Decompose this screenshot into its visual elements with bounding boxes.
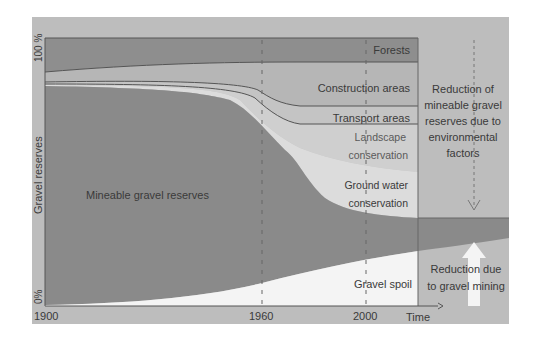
annotation-env-2: mineable gravel — [424, 99, 502, 111]
annotation-mining-2: to gravel mining — [427, 280, 505, 292]
y-axis-bottom-label: 0% — [33, 289, 44, 304]
label-groundwater-conservation-1: Ground water — [344, 179, 408, 191]
label-mineable-gravel-reserves: Mineable gravel reserves — [86, 189, 209, 201]
annotation-env-5: factors — [446, 147, 480, 159]
annotation-env-4: environmental — [428, 131, 497, 143]
annotation-env-1: Reduction of — [432, 83, 495, 95]
x-axis-title: Time — [406, 311, 430, 323]
x-tick-1900: 1900 — [34, 310, 58, 322]
label-gravel-spoil: Gravel spoil — [354, 278, 412, 290]
annotation-env-3: reserves due to — [425, 115, 501, 127]
label-landscape-conservation-1: Landscape — [355, 131, 407, 143]
label-landscape-conservation-2: conservation — [348, 149, 408, 161]
label-construction-areas: Construction areas — [318, 82, 411, 94]
x-tick-1960: 1960 — [249, 310, 273, 322]
label-forests: Forests — [373, 44, 410, 56]
annotation-mining-1: Reduction due — [431, 263, 502, 275]
label-transport-areas: Transport areas — [333, 112, 411, 124]
label-groundwater-conservation-2: conservation — [348, 197, 408, 209]
y-axis-top-label: 100 % — [33, 34, 44, 62]
y-axis-title: Gravel reserves — [32, 136, 44, 214]
gravel-reserves-chart: 100 % Gravel reserves 0% 1900 1960 2000 … — [0, 0, 534, 347]
x-tick-2000: 2000 — [353, 310, 377, 322]
